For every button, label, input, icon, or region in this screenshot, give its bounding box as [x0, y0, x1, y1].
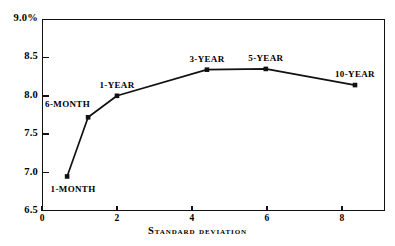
x-tick-label: 0	[40, 213, 45, 223]
x-tick-label: 6	[265, 213, 270, 223]
x-tick-label: 4	[190, 213, 195, 223]
y-tick-label: 6.5	[0, 204, 38, 215]
y-tick-mark	[43, 172, 49, 174]
yield-curve-chart: 9.0%8.58.07.57.06.5 02468 1-MONTH6-MONTH…	[0, 0, 395, 246]
plot-area-frame	[42, 19, 385, 211]
data-point-label: 5-YEAR	[248, 53, 283, 63]
y-tick-mark	[43, 133, 49, 135]
y-tick-mark	[43, 95, 49, 97]
y-tick-label: 8.0	[0, 89, 38, 100]
y-tick-label: 9.0%	[0, 12, 38, 23]
y-tick-label: 7.0	[0, 166, 38, 177]
x-tick-mark	[341, 206, 343, 211]
x-tick-label: 8	[340, 213, 345, 223]
x-tick-mark	[266, 206, 268, 211]
y-tick-mark	[43, 57, 49, 59]
data-point-label: 6-MONTH	[45, 99, 90, 109]
y-tick-label: 7.5	[0, 127, 38, 138]
x-tick-mark	[116, 206, 118, 211]
x-tick-mark	[191, 206, 193, 211]
data-point-label: 3-YEAR	[189, 54, 224, 64]
data-point-label: 1-YEAR	[99, 80, 134, 90]
data-point-label: 1-MONTH	[51, 184, 96, 194]
x-tick-mark	[41, 206, 43, 211]
y-tick-label: 8.5	[0, 50, 38, 61]
x-tick-label: 2	[115, 213, 120, 223]
data-point-label: 10-YEAR	[335, 69, 375, 79]
x-axis-title: Standard deviation	[0, 225, 395, 236]
